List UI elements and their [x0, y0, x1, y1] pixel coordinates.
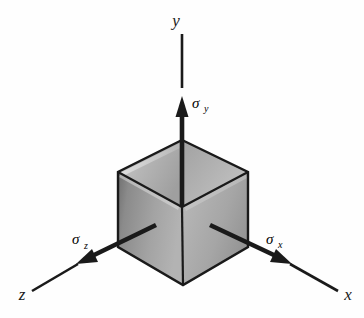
sigma-y-subscript: y [203, 103, 209, 114]
stress-element-diagram: y x z σ y σ x σ z [0, 0, 364, 318]
figure-root: y x z σ y σ x σ z [0, 0, 364, 318]
sigma-z-subscript: z [83, 240, 88, 251]
sigma-x-subscript: x [277, 239, 283, 250]
sigma-z-symbol: σ [72, 231, 80, 247]
cube-edge-vertical-inner [182, 207, 183, 285]
sigma-y-symbol: σ [192, 95, 200, 111]
sigma-x-symbol: σ [266, 231, 274, 247]
axis-label-x: x [343, 285, 352, 304]
axis-label-y: y [170, 11, 180, 30]
sigma-z-label: σ z [72, 231, 88, 251]
axis-label-z: z [18, 285, 26, 304]
x-axis-line [290, 264, 338, 291]
sigma-y-label: σ y [192, 95, 209, 114]
z-axis-line [32, 264, 78, 291]
sigma-x-label: σ x [266, 231, 283, 250]
